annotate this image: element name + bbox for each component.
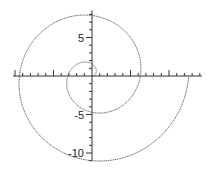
y-tick-label: 5 xyxy=(78,32,84,44)
spiral-chart: 5-5-10 xyxy=(0,0,207,173)
y-tick-labels: 5-5-10 xyxy=(68,32,84,160)
axes xyxy=(13,11,202,161)
y-tick-label: -5 xyxy=(74,109,84,121)
spiral-curve xyxy=(19,15,189,161)
